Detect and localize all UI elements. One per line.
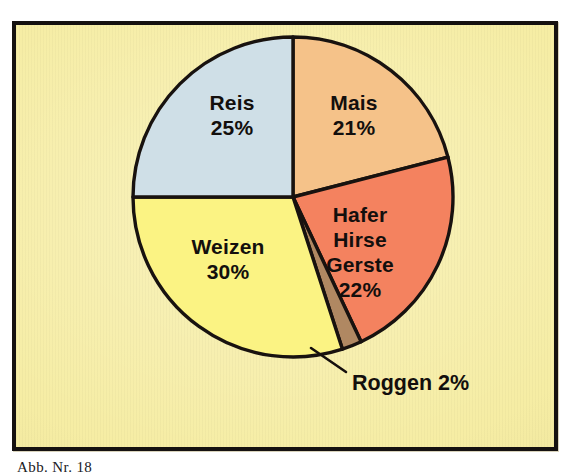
- figure-caption: Abb. Nr. 18: [17, 459, 92, 472]
- pie-callout-layer: Roggen 2%: [311, 348, 469, 395]
- pie-slice-label-roggen: Roggen 2%: [352, 371, 469, 395]
- pie-chart: Roggen 2% Mais21%HaferHirseGerste22%Weiz…: [0, 0, 574, 472]
- figure-root: Roggen 2% Mais21%HaferHirseGerste22%Weiz…: [0, 0, 574, 472]
- pie-slice-layer: [133, 37, 453, 357]
